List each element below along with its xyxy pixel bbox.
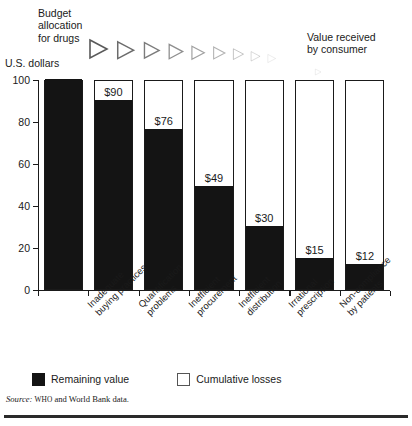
bar [295,80,334,290]
source-prefix: Source: [6,394,32,404]
right-triangle-arrow-icon [189,44,207,62]
source-note: Source: WHO and World Bank data. [6,394,129,404]
bar-value-label: $90 [104,86,122,98]
chart-figure: Budget allocation for drugs Value receiv… [0,0,412,426]
y-axis-units-label: U.S. dollars [5,57,59,69]
bar-value-label: $49 [205,172,223,184]
bar [44,80,83,290]
x-axis-category-labels: Inadequate buying practicesQuantificatio… [0,300,412,370]
source-rest: and World Bank data. [54,394,129,404]
bar-value-label: $76 [155,115,173,127]
bar [194,80,233,290]
right-triangle-arrow-icon [314,62,322,70]
right-triangle-arrow-icon [86,37,110,61]
legend-item-cumulative-losses: Cumulative losses [177,373,281,386]
bar-remaining-value-segment [45,79,82,289]
bottom-rule-divider [4,415,408,418]
chart-legend: Remaining value Cumulative losses [32,371,281,387]
budget-allocation-caption: Budget allocation for drugs [38,7,82,44]
right-triangle-arrow-icon [166,42,185,61]
value-received-caption: Value received by consumer [307,31,376,56]
bar [245,80,284,290]
top-annotation-band: Budget allocation for drugs Value receiv… [0,0,412,70]
right-triangle-arrow-icon [211,45,227,61]
right-triangle-arrow-icon [141,40,162,61]
bar-group: $90$76$49$30$15$12 [0,70,412,310]
legend-label-remaining-value: Remaining value [51,373,129,385]
legend-item-remaining-value: Remaining value [32,373,129,386]
plot-area: 020406080100 $90$76$49$30$15$12 [0,70,412,310]
bar-value-label: $30 [255,212,273,224]
source-organization: WHO [35,395,53,404]
legend-swatch-hollow-icon [177,373,190,386]
right-triangle-arrow-icon [249,48,262,61]
bar-value-label: $15 [305,244,323,256]
bar-value-label: $12 [356,250,374,262]
right-triangle-arrow-icon [114,39,136,61]
legend-swatch-filled-icon [32,373,45,386]
right-triangle-arrow-icon [266,50,277,61]
arrow-sequence [86,31,306,61]
right-triangle-arrow-icon [231,47,245,61]
legend-label-cumulative-losses: Cumulative losses [196,373,281,385]
bar [144,80,183,290]
